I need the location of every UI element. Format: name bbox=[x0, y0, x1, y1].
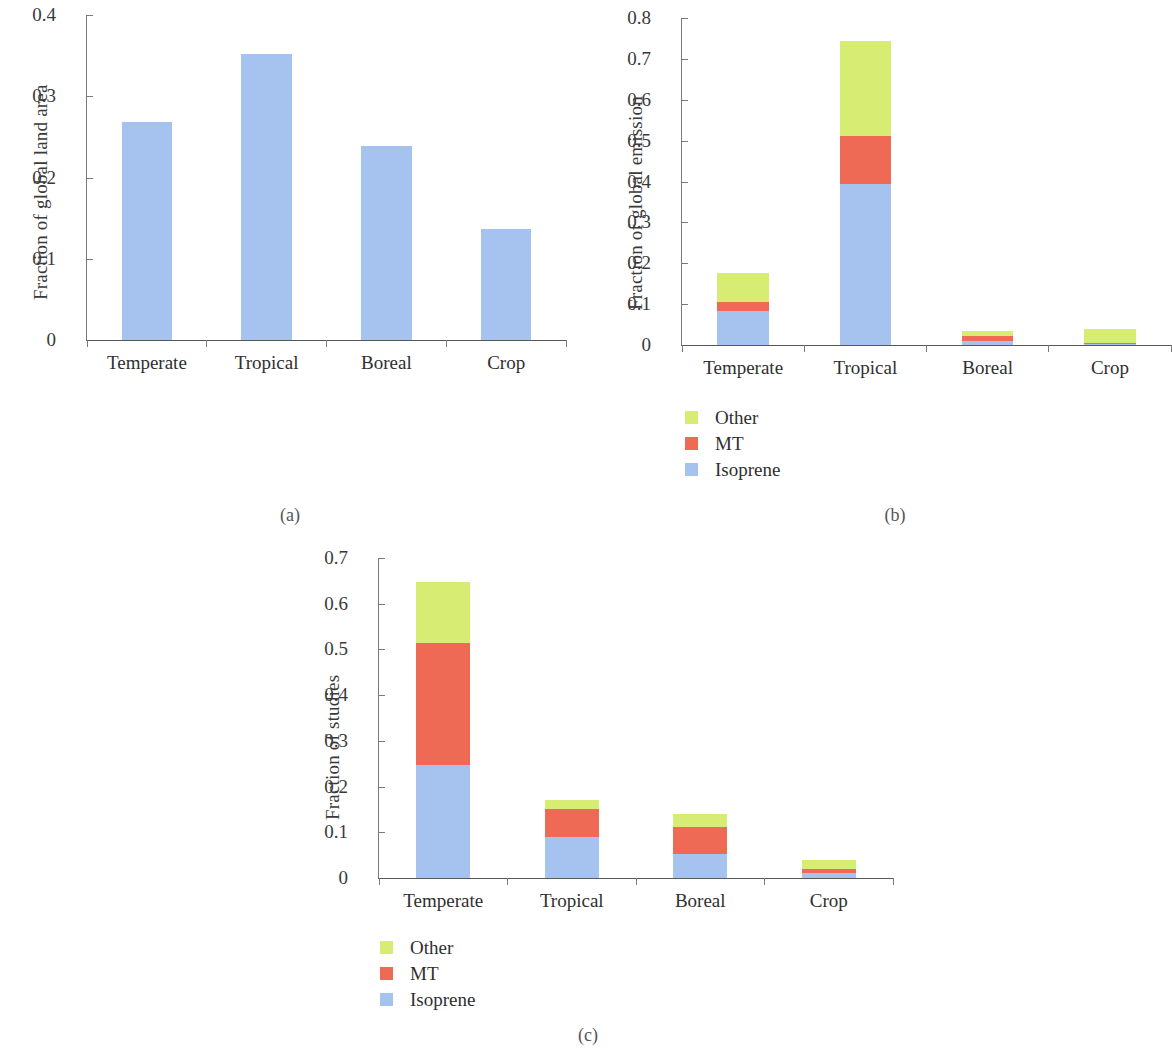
legend-item-other[interactable]: Other bbox=[380, 935, 580, 961]
chart-panel-b: Fraction of global emission 00.10.20.30.… bbox=[600, 0, 1171, 500]
bar-segment-other bbox=[1084, 329, 1135, 343]
x-axis-labels-c: TemperateTropicalBorealCrop bbox=[379, 890, 893, 920]
bar-segment-other bbox=[416, 582, 470, 643]
x-tick-mark bbox=[446, 340, 447, 347]
legend-label: MT bbox=[410, 961, 439, 987]
x-tick-mark bbox=[636, 878, 637, 885]
bar-segment-isoprene bbox=[1084, 344, 1135, 345]
bar-segment-mt bbox=[1084, 343, 1135, 344]
bar-temperate bbox=[122, 122, 172, 340]
bar-crop bbox=[802, 860, 856, 878]
y-tick-label: 0.4 bbox=[627, 171, 651, 193]
legend-item-mt[interactable]: MT bbox=[380, 961, 580, 987]
bar-temperate bbox=[717, 273, 768, 345]
y-tick-label: 0.4 bbox=[32, 4, 56, 26]
bar-boreal bbox=[962, 331, 1013, 345]
bar-segment-fraction of global land area bbox=[361, 146, 411, 340]
y-tick-label: 0 bbox=[47, 329, 57, 351]
x-axis-labels-a: TemperateTropicalBorealCrop bbox=[87, 352, 566, 382]
y-tick-label: 0.3 bbox=[324, 730, 348, 752]
legend-label: Other bbox=[715, 405, 758, 431]
y-axis-ticks-c: 00.10.20.30.40.50.60.7 bbox=[312, 545, 358, 878]
bar-segment-mt bbox=[545, 809, 599, 837]
x-tick-label-tropical: Tropical bbox=[540, 890, 604, 912]
bar-temperate bbox=[416, 582, 470, 878]
y-tick-label: 0.6 bbox=[324, 593, 348, 615]
x-tick-label-crop: Crop bbox=[1091, 357, 1129, 379]
bar-boreal bbox=[361, 146, 411, 340]
bar-segment-isoprene bbox=[673, 854, 727, 878]
x-tick-label-boreal: Boreal bbox=[675, 890, 726, 912]
x-tick-mark bbox=[682, 345, 683, 352]
x-tick-mark bbox=[326, 340, 327, 347]
bar-segment-other bbox=[840, 41, 891, 135]
legend-label: MT bbox=[715, 431, 744, 457]
legend-item-isoprene[interactable]: Isoprene bbox=[380, 987, 580, 1013]
y-tick-label: 0.2 bbox=[324, 776, 348, 798]
x-tick-mark bbox=[804, 345, 805, 352]
x-tick-mark bbox=[379, 878, 380, 885]
y-tick-label: 0.3 bbox=[627, 211, 651, 233]
x-tick-mark bbox=[87, 340, 88, 347]
y-tick-label: 0.4 bbox=[324, 684, 348, 706]
x-tick-label-boreal: Boreal bbox=[361, 352, 412, 374]
y-tick-label: 0.5 bbox=[324, 638, 348, 660]
bar-segment-mt bbox=[673, 827, 727, 854]
legend-swatch-mt-icon bbox=[380, 967, 393, 980]
bar-segment-mt bbox=[962, 336, 1013, 340]
plot-area-a bbox=[87, 15, 566, 340]
bar-segment-other bbox=[962, 331, 1013, 337]
legend-label: Isoprene bbox=[410, 987, 475, 1013]
panel-caption-b: (b) bbox=[885, 505, 906, 526]
plot-area-c bbox=[379, 558, 893, 878]
y-tick-label: 0.2 bbox=[627, 252, 651, 274]
y-tick-label: 0.1 bbox=[32, 248, 56, 270]
x-tick-mark bbox=[1171, 345, 1172, 352]
bar-tropical bbox=[840, 41, 891, 345]
bar-segment-isoprene bbox=[416, 765, 470, 878]
bar-segment-isoprene bbox=[962, 341, 1013, 345]
x-tick-label-boreal: Boreal bbox=[962, 357, 1013, 379]
y-tick-label: 0.1 bbox=[324, 821, 348, 843]
x-tick-label-tropical: Tropical bbox=[235, 352, 299, 374]
y-axis-ticks-a: 00.10.20.30.4 bbox=[20, 0, 66, 340]
x-tick-mark bbox=[893, 878, 894, 885]
legend-c: OtherMTIsoprene bbox=[380, 935, 580, 1013]
y-tick-label: 0 bbox=[642, 334, 652, 356]
x-tick-label-temperate: Temperate bbox=[703, 357, 783, 379]
bar-segment-mt bbox=[840, 136, 891, 184]
x-tick-label-temperate: Temperate bbox=[403, 890, 483, 912]
bar-segment-fraction of global land area bbox=[241, 54, 291, 340]
x-axis-labels-b: TemperateTropicalBorealCrop bbox=[682, 357, 1171, 387]
y-tick-label: 0.7 bbox=[627, 48, 651, 70]
legend-swatch-other-icon bbox=[685, 411, 698, 424]
chart-panel-a: Fraction of global land area 00.10.20.30… bbox=[0, 0, 600, 400]
y-axis-ticks-b: 00.10.20.30.40.50.60.70.8 bbox=[615, 0, 661, 345]
y-tick-label: 0.6 bbox=[627, 89, 651, 111]
legend-item-isoprene[interactable]: Isoprene bbox=[685, 457, 885, 483]
bar-segment-isoprene bbox=[717, 311, 768, 345]
x-tick-label-tropical: Tropical bbox=[834, 357, 898, 379]
legend-item-other[interactable]: Other bbox=[685, 405, 885, 431]
y-tick-label: 0.1 bbox=[627, 293, 651, 315]
legend-swatch-isoprene-icon bbox=[380, 993, 393, 1006]
bar-segment-isoprene bbox=[802, 873, 856, 878]
bar-boreal bbox=[673, 814, 727, 878]
legend-b: OtherMTIsoprene bbox=[685, 405, 885, 483]
bar-crop bbox=[1084, 329, 1135, 345]
x-tick-mark bbox=[764, 878, 765, 885]
chart-panel-c: Fraction of studies 00.10.20.30.40.50.60… bbox=[300, 545, 920, 1005]
legend-label: Other bbox=[410, 935, 453, 961]
x-tick-mark bbox=[926, 345, 927, 352]
x-tick-label-crop: Crop bbox=[487, 352, 525, 374]
legend-item-mt[interactable]: MT bbox=[685, 431, 885, 457]
bar-tropical bbox=[241, 54, 291, 340]
legend-swatch-other-icon bbox=[380, 941, 393, 954]
bar-segment-other bbox=[802, 860, 856, 869]
y-tick-label: 0.3 bbox=[32, 85, 56, 107]
bar-segment-fraction of global land area bbox=[122, 122, 172, 340]
panel-caption-a: (a) bbox=[280, 505, 300, 526]
legend-label: Isoprene bbox=[715, 457, 780, 483]
bar-tropical bbox=[545, 800, 599, 878]
bar-segment-other bbox=[545, 800, 599, 809]
